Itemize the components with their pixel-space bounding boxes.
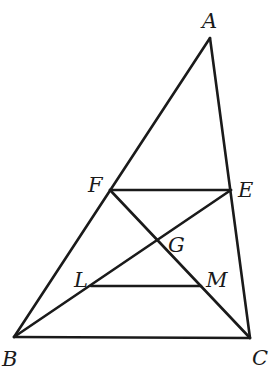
segment-ab xyxy=(14,38,210,337)
triangle-diagram: AFEGLMBC xyxy=(0,0,278,377)
point-label-m: M xyxy=(205,268,228,292)
segment-be xyxy=(14,190,231,337)
point-label-e: E xyxy=(237,178,253,202)
point-label-c: C xyxy=(252,346,268,370)
point-label-g: G xyxy=(168,233,185,257)
point-label-b: B xyxy=(1,347,17,371)
point-label-l: L xyxy=(73,268,88,292)
point-label-a: A xyxy=(200,9,217,33)
point-label-f: F xyxy=(87,173,104,197)
segment-fc xyxy=(110,190,250,338)
segment-bc xyxy=(14,337,250,338)
segments-group xyxy=(14,38,250,338)
